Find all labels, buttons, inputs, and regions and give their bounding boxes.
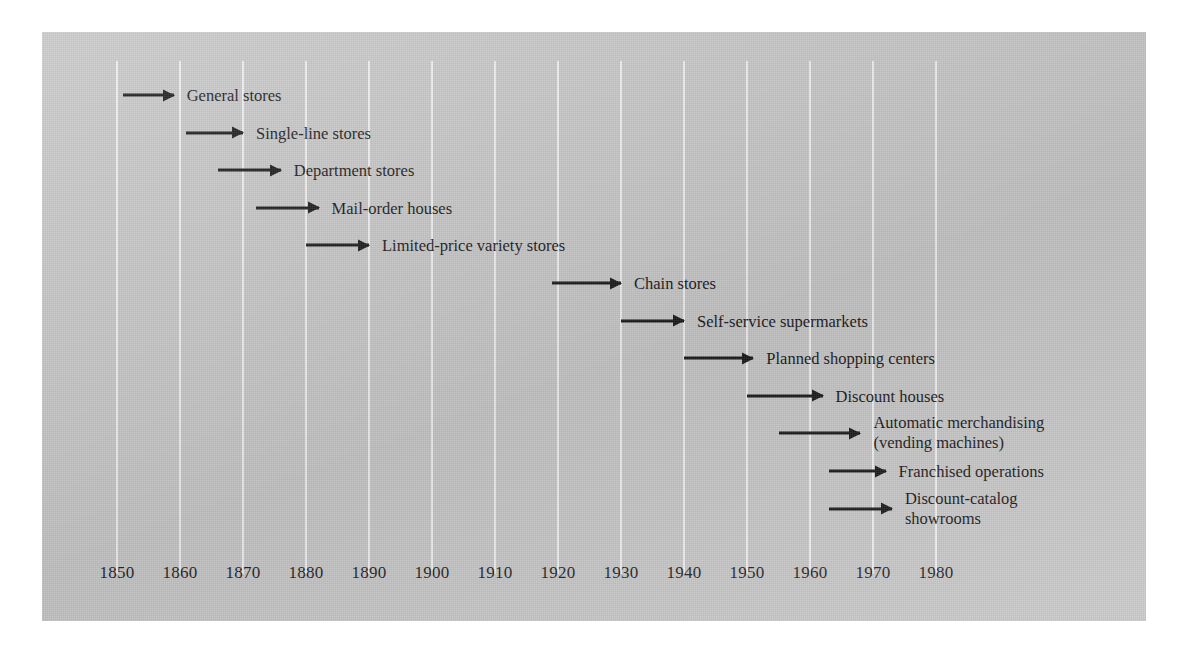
arrow-head-icon: [358, 239, 370, 251]
arrow-head-icon: [308, 202, 320, 214]
timeline-row-label-line1: Single-line stores: [256, 123, 371, 142]
timeline-chart-panel: 1850186018701880189019001910192019301940…: [42, 32, 1146, 621]
timeline-row-label-line1: Automatic merchandising: [873, 413, 1044, 433]
timeline-row-label: Mail-order houses: [332, 198, 453, 217]
timeline-row-label-line1: Mail-order houses: [332, 198, 453, 217]
timeline-arrow-icon: [747, 394, 823, 397]
timeline-row: General stores: [42, 83, 1146, 107]
arrow-head-icon: [232, 127, 244, 139]
tick-label-1940: 1940: [666, 563, 701, 583]
timeline-arrow-icon: [684, 357, 753, 360]
timeline-row-label: Automatic merchandising(vending machines…: [873, 413, 1044, 453]
tick-label-1900: 1900: [414, 563, 449, 583]
timeline-arrow-icon: [186, 131, 243, 134]
timeline-row: Chain stores: [42, 271, 1146, 295]
timeline-arrow-icon: [306, 244, 369, 247]
timeline-row-label: Chain stores: [634, 274, 716, 293]
tick-label-1980: 1980: [918, 563, 953, 583]
tick-label-1910: 1910: [477, 563, 512, 583]
timeline-row-label: Self-service supermarkets: [697, 311, 868, 330]
timeline-arrow-icon: [256, 206, 319, 209]
timeline-row-label: General stores: [187, 86, 282, 105]
timeline-arrow-icon: [779, 432, 861, 435]
arrow-head-icon: [812, 390, 824, 402]
timeline-row: Department stores: [42, 158, 1146, 182]
timeline-row: Planned shopping centers: [42, 346, 1146, 370]
timeline-row: Franchised operations: [42, 459, 1146, 483]
timeline-row-label: Discount houses: [836, 386, 945, 405]
timeline-arrow-icon: [218, 169, 281, 172]
timeline-arrow-icon: [621, 319, 684, 322]
timeline-row-label-line1: Self-service supermarkets: [697, 311, 868, 330]
tick-label-1950: 1950: [729, 563, 764, 583]
arrow-head-icon: [270, 164, 282, 176]
timeline-row: Mail-order houses: [42, 196, 1146, 220]
tick-label-1870: 1870: [225, 563, 260, 583]
timeline-row: Discount-catalogshowrooms: [42, 497, 1146, 521]
tick-label-1960: 1960: [792, 563, 827, 583]
timeline-arrow-icon: [552, 282, 621, 285]
timeline-row-label: Discount-catalogshowrooms: [905, 489, 1018, 529]
timeline-row: Discount houses: [42, 384, 1146, 408]
timeline-row-label-line1: Discount houses: [836, 386, 945, 405]
timeline-row-label-line1: Chain stores: [634, 274, 716, 293]
timeline-row: Limited-price variety stores: [42, 233, 1146, 257]
arrow-head-icon: [163, 89, 175, 101]
timeline-row-label-line1: Department stores: [294, 161, 415, 180]
timeline-row: Single-line stores: [42, 121, 1146, 145]
timeline-row-label-line2: showrooms: [905, 509, 1018, 529]
arrow-head-icon: [610, 277, 622, 289]
arrow-head-icon: [849, 427, 861, 439]
tick-label-1970: 1970: [855, 563, 890, 583]
timeline-row-label: Limited-price variety stores: [382, 236, 565, 255]
arrow-head-icon: [875, 465, 887, 477]
tick-label-1850: 1850: [99, 563, 134, 583]
figure-stage: 1850186018701880189019001910192019301940…: [0, 0, 1188, 662]
timeline-row-label-line1: Limited-price variety stores: [382, 236, 565, 255]
timeline-row-label-line1: Planned shopping centers: [766, 349, 935, 368]
arrow-head-icon: [742, 352, 754, 364]
timeline-row-label-line1: Franchised operations: [899, 462, 1044, 481]
tick-label-1920: 1920: [540, 563, 575, 583]
tick-label-1930: 1930: [603, 563, 638, 583]
timeline-row-label: Single-line stores: [256, 123, 371, 142]
timeline-arrow-icon: [829, 470, 886, 473]
tick-label-1880: 1880: [288, 563, 323, 583]
timeline-arrow-icon: [123, 94, 173, 97]
tick-label-1890: 1890: [351, 563, 386, 583]
timeline-row-label: Franchised operations: [899, 462, 1044, 481]
timeline-arrow-icon: [829, 507, 892, 510]
timeline-row: Self-service supermarkets: [42, 309, 1146, 333]
timeline-row-label-line1: Discount-catalog: [905, 489, 1018, 509]
timeline-row-label: Planned shopping centers: [766, 349, 935, 368]
timeline-row-label-line2: (vending machines): [873, 433, 1044, 453]
timeline-row: Automatic merchandising(vending machines…: [42, 421, 1146, 445]
timeline-row-label: Department stores: [294, 161, 415, 180]
arrow-head-icon: [673, 315, 685, 327]
arrow-head-icon: [881, 503, 893, 515]
tick-label-1860: 1860: [162, 563, 197, 583]
timeline-row-label-line1: General stores: [187, 86, 282, 105]
